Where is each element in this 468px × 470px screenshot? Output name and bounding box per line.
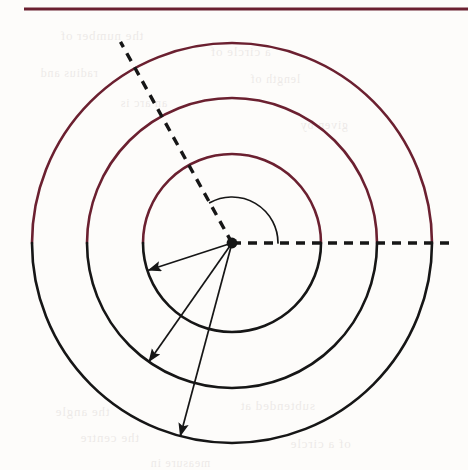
center-point: [227, 238, 238, 249]
circle-upper-arc-c2: [87, 98, 377, 243]
theta-arc-path: [210, 197, 278, 243]
circle-upper-arc-c3: [32, 43, 432, 243]
terminal-dashed-ray: [120, 42, 232, 243]
circle-lower-arc-c1: [143, 243, 321, 332]
circle-lower-arc-c2: [87, 243, 377, 388]
circle-lower-arc-c3: [32, 243, 432, 443]
center-dot: [227, 238, 238, 249]
figure-page: the number ofa circle ofradius andlength…: [0, 0, 468, 470]
theta-arc: [210, 197, 278, 243]
concentric-circles-figure: [0, 0, 468, 470]
radius-arrow-6cm: [149, 243, 232, 362]
radius-arrow-4cm: [148, 243, 232, 270]
radius-arrow-group: [148, 243, 232, 436]
radius-arrow-8cm: [180, 243, 232, 436]
circle-upper-arc-c1: [143, 154, 321, 243]
